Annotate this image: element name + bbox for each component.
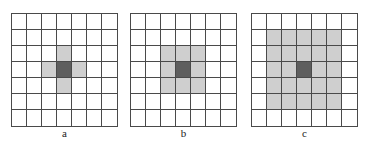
grid-cell xyxy=(252,62,267,78)
neighbor-cell xyxy=(312,30,327,46)
grid-cell xyxy=(12,46,27,62)
neighbor-cell xyxy=(297,30,312,46)
grid-cell xyxy=(282,14,297,30)
neighbor-cell xyxy=(176,46,191,62)
grid-cell xyxy=(27,62,42,78)
grid-cell xyxy=(342,62,357,78)
grid-cell xyxy=(191,94,206,110)
grid-cell xyxy=(297,14,312,30)
grid-cell xyxy=(267,14,282,30)
grid-cell xyxy=(42,14,57,30)
neighbor-cell xyxy=(191,62,206,78)
grid-cell xyxy=(252,30,267,46)
grid-cell xyxy=(176,110,191,126)
label-c: c xyxy=(251,127,358,139)
grid-cell xyxy=(72,78,87,94)
grid-cell xyxy=(191,110,206,126)
grid-cell xyxy=(72,30,87,46)
grid-cell xyxy=(102,46,117,62)
panel-a xyxy=(11,13,118,127)
grid-cell xyxy=(102,94,117,110)
grid-cell xyxy=(342,110,357,126)
grid-cell xyxy=(206,46,221,62)
center-cell xyxy=(57,62,72,78)
grid-cell xyxy=(27,46,42,62)
neighbor-cell xyxy=(161,62,176,78)
grid-cell xyxy=(221,110,236,126)
grid-cell xyxy=(27,14,42,30)
grid-cell xyxy=(312,110,327,126)
grid-cell xyxy=(87,94,102,110)
neighbor-cell xyxy=(191,78,206,94)
grid-cell xyxy=(146,78,161,94)
grid-cell xyxy=(27,110,42,126)
grid-cell xyxy=(146,46,161,62)
neighbor-cell xyxy=(327,62,342,78)
neighbor-cell xyxy=(282,62,297,78)
grid-cell xyxy=(252,46,267,62)
grid-cell xyxy=(252,110,267,126)
neighbor-cell xyxy=(312,46,327,62)
grid-cell xyxy=(267,110,282,126)
neighbor-cell xyxy=(282,78,297,94)
grid-cell xyxy=(27,30,42,46)
grid-cell xyxy=(72,46,87,62)
grid-cell xyxy=(342,94,357,110)
center-cell xyxy=(297,62,312,78)
grid-cell xyxy=(87,14,102,30)
grid-cell xyxy=(12,30,27,46)
grid-cell xyxy=(102,30,117,46)
label-b: b xyxy=(130,127,237,139)
grid-cell xyxy=(42,46,57,62)
grid-cell xyxy=(72,94,87,110)
grid-cell xyxy=(87,110,102,126)
grid-a xyxy=(11,13,118,127)
grid-cell xyxy=(221,46,236,62)
grid-cell xyxy=(342,30,357,46)
grid-cell xyxy=(102,110,117,126)
grid-cell xyxy=(206,62,221,78)
grid-cell xyxy=(312,14,327,30)
panel-c xyxy=(251,13,358,127)
grid-cell xyxy=(252,14,267,30)
grid-cell xyxy=(191,14,206,30)
grid-cell xyxy=(206,30,221,46)
grid-cell xyxy=(327,110,342,126)
grid-cell xyxy=(206,14,221,30)
grid-cell xyxy=(42,30,57,46)
grid-cell xyxy=(146,110,161,126)
neighbor-cell xyxy=(191,46,206,62)
grid-cell xyxy=(252,78,267,94)
grid-cell xyxy=(342,78,357,94)
grid-cell xyxy=(176,30,191,46)
neighbor-cell xyxy=(327,46,342,62)
grid-cell xyxy=(131,14,146,30)
grid-cell xyxy=(146,94,161,110)
grid-cell xyxy=(87,62,102,78)
neighbor-cell xyxy=(327,30,342,46)
grid-cell xyxy=(221,30,236,46)
grid-cell xyxy=(282,110,297,126)
grid-cell xyxy=(57,94,72,110)
neighbor-cell xyxy=(42,62,57,78)
grid-cell xyxy=(27,94,42,110)
grid-cell xyxy=(206,110,221,126)
grid-cell xyxy=(72,110,87,126)
label-a: a xyxy=(11,127,118,139)
grid-cell xyxy=(42,94,57,110)
neighbor-cell xyxy=(267,30,282,46)
grid-cell xyxy=(252,94,267,110)
grid-cell xyxy=(221,62,236,78)
grid-cell xyxy=(131,46,146,62)
grid-cell xyxy=(57,14,72,30)
grid-cell xyxy=(87,46,102,62)
center-cell xyxy=(176,62,191,78)
grid-cell xyxy=(176,14,191,30)
grid-cell xyxy=(87,78,102,94)
grid-cell xyxy=(146,30,161,46)
grid-cell xyxy=(131,94,146,110)
grid-cell xyxy=(327,14,342,30)
neighbor-cell xyxy=(176,78,191,94)
grid-cell xyxy=(342,46,357,62)
grid-cell xyxy=(161,14,176,30)
